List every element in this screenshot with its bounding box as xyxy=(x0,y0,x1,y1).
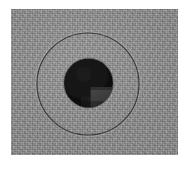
figure-root: Grayscale micrograph of circular specime… xyxy=(0,0,191,169)
disc-lower-band-shadow xyxy=(63,101,115,111)
micrograph-photo-plate xyxy=(11,9,178,155)
specimen-overlay-svg xyxy=(11,9,178,155)
quadrant-shading-band xyxy=(90,87,120,90)
